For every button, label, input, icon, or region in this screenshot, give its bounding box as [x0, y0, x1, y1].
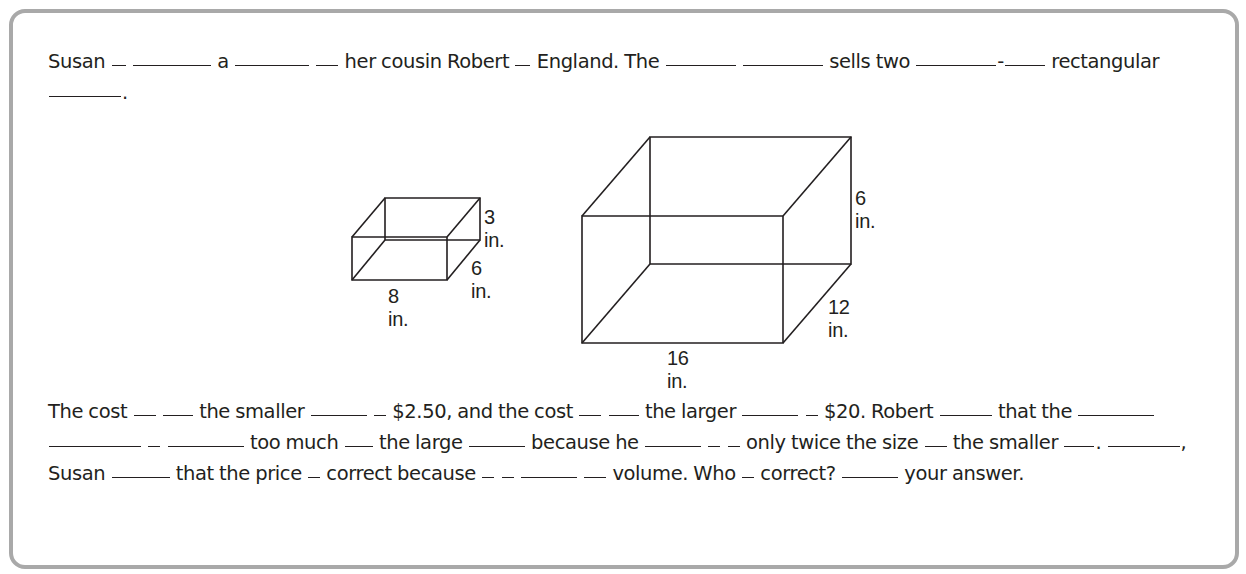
fill-in-blank	[168, 445, 244, 447]
fill-in-blank	[842, 476, 898, 478]
fill-in-blank	[806, 414, 818, 416]
fill-in-blank	[925, 445, 947, 447]
fill-in-blank	[49, 445, 141, 447]
fill-in-blank	[469, 445, 525, 447]
fill-in-blank	[742, 476, 754, 478]
fill-in-blank	[1108, 445, 1180, 447]
fill-in-blank	[609, 414, 639, 416]
fill-in-blank	[645, 445, 701, 447]
fill-in-blank	[584, 476, 606, 478]
small-box-length-label: 8 in.	[388, 285, 408, 331]
fill-in-blank	[311, 414, 367, 416]
fill-in-blank	[502, 476, 514, 478]
small-box-width-label: 6 in.	[471, 257, 491, 303]
fill-in-blank	[112, 476, 170, 478]
problem-paragraph-question: The cost the smaller $2.50, and the cost…	[48, 396, 1208, 489]
fill-in-blank	[579, 414, 601, 416]
large-box-length-label: 16 in.	[667, 347, 689, 393]
fill-in-blank	[940, 414, 992, 416]
large-box-height-label: 6 in.	[855, 187, 875, 233]
fill-in-blank	[148, 445, 160, 447]
fill-in-blank	[728, 445, 740, 447]
fill-in-blank	[374, 414, 386, 416]
fill-in-blank	[521, 476, 577, 478]
fill-in-blank	[163, 414, 193, 416]
large-box-front-face	[582, 216, 783, 343]
fill-in-blank	[345, 445, 373, 447]
fill-in-blank	[308, 476, 320, 478]
fill-in-blank	[742, 414, 798, 416]
small-box-height-label: 3 in.	[484, 206, 504, 252]
fill-in-blank	[482, 476, 494, 478]
small-box-front-face	[352, 237, 447, 280]
fill-in-blank	[708, 445, 720, 447]
fill-in-blank	[1078, 414, 1154, 416]
fill-in-blank	[134, 414, 156, 416]
fill-in-blank	[1064, 445, 1094, 447]
large-box-width-label: 12 in.	[828, 296, 850, 342]
